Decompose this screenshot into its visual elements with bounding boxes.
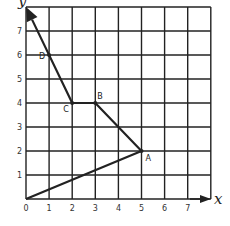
y-tick-label: 1 bbox=[17, 171, 22, 180]
x-tick-label: 5 bbox=[139, 204, 144, 213]
path-polyline bbox=[26, 20, 142, 199]
x-tick-label: 7 bbox=[185, 204, 190, 213]
y-tick-labels: 1234567 bbox=[17, 27, 22, 180]
x-axis-label: x bbox=[214, 190, 223, 208]
y-tick-label: 6 bbox=[17, 51, 22, 60]
y-axis-label: y bbox=[17, 0, 27, 10]
y-tick-label: 4 bbox=[17, 99, 22, 108]
point-marker bbox=[93, 101, 97, 105]
grid-lines bbox=[26, 7, 211, 199]
x-tick-label: 2 bbox=[70, 204, 75, 213]
y-tick-label: 7 bbox=[17, 27, 22, 36]
x-tick-label: 1 bbox=[47, 204, 52, 213]
x-tick-label: 4 bbox=[116, 204, 121, 213]
point-marker bbox=[140, 149, 144, 153]
x-tick-labels: 01234567 bbox=[24, 204, 191, 213]
point-marker bbox=[47, 53, 51, 57]
x-tick-label: 3 bbox=[93, 204, 98, 213]
point-label-a: A bbox=[146, 154, 152, 163]
y-tick-label: 3 bbox=[17, 123, 22, 132]
point-label-c: C bbox=[63, 105, 69, 114]
y-tick-label: 2 bbox=[17, 147, 22, 156]
point-marker bbox=[70, 101, 74, 105]
y-tick-label: 5 bbox=[17, 75, 22, 84]
x-tick-label: 6 bbox=[162, 204, 167, 213]
point-label-d: D bbox=[39, 52, 45, 61]
x-tick-label: 0 bbox=[24, 204, 29, 213]
point-label-b: B bbox=[97, 92, 103, 101]
coordinate-grid: 01234567 1234567 x y ABCD bbox=[0, 0, 230, 226]
x-axis-arrow-icon bbox=[200, 195, 211, 203]
